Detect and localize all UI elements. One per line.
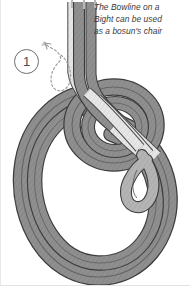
figure-caption: The Bowline on a Bight can be used as a …	[94, 1, 186, 37]
motion-arrow-dashed-icon	[41, 41, 71, 91]
step-number-badge: 1	[14, 49, 39, 74]
knot-diagram-svg	[1, 0, 190, 286]
caption-line-1: The Bowline on a	[94, 1, 186, 13]
knot-illustration-page: 1 The Bowline on a Bight can be used as …	[0, 0, 190, 286]
caption-line-2: Bight can be used	[94, 13, 186, 25]
step-number-label: 1	[23, 55, 30, 69]
caption-line-3: as a bosun's chair	[94, 25, 186, 37]
